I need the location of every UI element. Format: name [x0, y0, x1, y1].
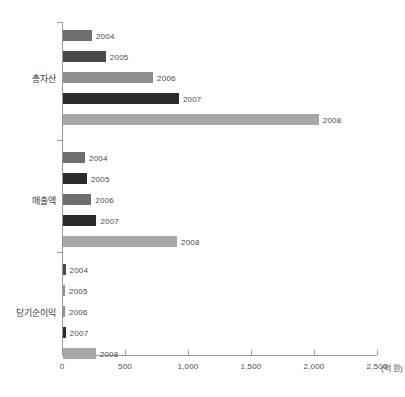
category-label-당기순이익: 당기순이익 — [16, 305, 56, 318]
bar-매출액-2004 — [63, 152, 85, 163]
x-tick-label-500: 500 — [118, 362, 132, 371]
bar-매출액-2006 — [63, 194, 91, 205]
bar-label-당기순이익-2007: 2007 — [70, 328, 89, 337]
financial-bar-chart: 05001,0001,5002,0002,500 (억 원) 총자산매출액당기순… — [0, 0, 405, 397]
bar-당기순이익-2007 — [63, 327, 66, 338]
bar-당기순이익-2008 — [63, 348, 96, 359]
bar-당기순이익-2006 — [63, 306, 65, 317]
bar-당기순이익-2005 — [63, 285, 65, 296]
bar-label-매출액-2006: 2006 — [95, 195, 114, 204]
bar-총자산-2004 — [63, 30, 92, 41]
bar-매출액-2005 — [63, 173, 87, 184]
y-group-tick-1 — [57, 140, 62, 141]
bar-label-매출액-2005: 2005 — [91, 174, 110, 183]
category-label-매출액: 매출액 — [32, 193, 56, 206]
bar-label-매출액-2008: 2008 — [181, 237, 200, 246]
y-group-tick-0 — [57, 22, 62, 23]
axis-unit-label: (억 원) — [381, 362, 403, 373]
bar-label-총자산-2007: 2007 — [183, 94, 202, 103]
x-tick-1500 — [251, 350, 252, 355]
x-tick-1000 — [188, 350, 189, 355]
x-tick-2500 — [377, 350, 378, 355]
bar-label-총자산-2005: 2005 — [110, 52, 129, 61]
bar-label-당기순이익-2008: 2008 — [100, 349, 119, 358]
bar-총자산-2008 — [63, 114, 319, 125]
bar-label-총자산-2004: 2004 — [96, 31, 115, 40]
x-tick-label-0: 0 — [60, 362, 65, 371]
x-tick-label-2000: 2,000 — [303, 362, 324, 371]
x-tick-label-1500: 1,500 — [240, 362, 261, 371]
x-tick-2000 — [314, 350, 315, 355]
bar-label-총자산-2008: 2008 — [323, 115, 342, 124]
y-group-tick-2 — [57, 252, 62, 253]
bar-label-총자산-2006: 2006 — [157, 73, 176, 82]
bar-매출액-2008 — [63, 236, 177, 247]
bar-매출액-2007 — [63, 215, 96, 226]
x-tick-label-1000: 1,000 — [177, 362, 198, 371]
bar-총자산-2005 — [63, 51, 106, 62]
x-tick-500 — [125, 350, 126, 355]
category-label-총자산: 총자산 — [32, 71, 56, 84]
bar-label-매출액-2007: 2007 — [100, 216, 119, 225]
bar-총자산-2006 — [63, 72, 153, 83]
bar-당기순이익-2004 — [63, 264, 66, 275]
bar-label-매출액-2004: 2004 — [89, 153, 108, 162]
bar-총자산-2007 — [63, 93, 179, 104]
bar-label-당기순이익-2005: 2005 — [69, 286, 88, 295]
bar-label-당기순이익-2006: 2006 — [69, 307, 88, 316]
bar-label-당기순이익-2004: 2004 — [70, 265, 89, 274]
